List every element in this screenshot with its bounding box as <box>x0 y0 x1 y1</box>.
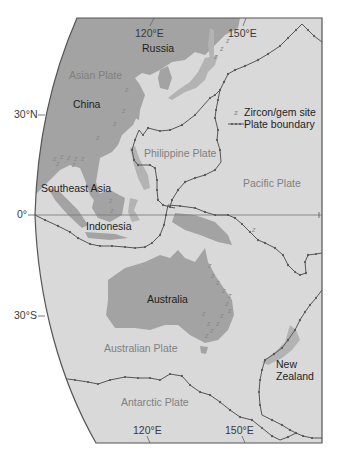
plate-boundary-line-icon <box>228 120 244 129</box>
svg-text:z: z <box>109 207 114 214</box>
region-label-new-zealand-2: Zealand <box>276 371 314 382</box>
svg-text:z: z <box>224 300 229 307</box>
region-label-russia: Russia <box>142 43 174 54</box>
latitude-label-30n: 30°N <box>14 109 37 120</box>
map-figure: zzz zzzz zzzzz zz zz z zzzz zzz zzzz zz <box>0 0 337 461</box>
svg-text:z: z <box>251 226 256 233</box>
longitude-label-120-top: 120°E <box>135 28 164 39</box>
longitude-label-150-top: 150°E <box>228 28 257 39</box>
map-legend: z Zircon/gem site Plate boundary <box>228 106 316 130</box>
plate-label-asian: Asian Plate <box>69 70 122 81</box>
svg-text:z: z <box>210 272 215 279</box>
zircon-symbol-icon: z <box>228 108 244 117</box>
svg-text:z: z <box>215 320 220 327</box>
svg-text:z: z <box>227 307 232 314</box>
longitude-label-120-bottom: 120°E <box>133 425 162 436</box>
svg-text:z: z <box>219 312 224 319</box>
svg-text:z: z <box>95 134 100 141</box>
region-label-indonesia: Indonesia <box>86 221 132 232</box>
svg-text:z: z <box>108 197 113 204</box>
plate-label-australian: Australian Plate <box>104 343 178 354</box>
svg-text:z: z <box>80 155 85 162</box>
svg-text:z: z <box>201 310 206 317</box>
plate-label-philippine: Philippine Plate <box>144 148 216 159</box>
svg-text:z: z <box>221 287 226 294</box>
svg-text:z: z <box>215 279 220 286</box>
legend-zircon-label: Zircon/gem site <box>244 106 316 118</box>
svg-text:z: z <box>124 86 129 93</box>
latitude-label-equator: 0° <box>17 209 27 220</box>
region-label-australia: Australia <box>147 294 188 305</box>
svg-text:z: z <box>206 320 211 327</box>
plate-label-antarctic: Antarctic Plate <box>121 397 189 408</box>
svg-text:z: z <box>55 160 60 167</box>
legend-item-boundary: Plate boundary <box>228 118 316 130</box>
legend-boundary-label: Plate boundary <box>244 118 315 130</box>
svg-text:z: z <box>219 45 224 52</box>
legend-item-zircon: z Zircon/gem site <box>228 106 316 118</box>
svg-text:z: z <box>204 332 209 339</box>
svg-text:z: z <box>66 154 71 161</box>
svg-text:z: z <box>112 120 117 127</box>
latitude-label-30s: 30°S <box>14 310 37 321</box>
svg-text:z: z <box>227 292 232 299</box>
svg-text:z: z <box>209 327 214 334</box>
longitude-label-150-bottom: 150°E <box>225 425 254 436</box>
svg-text:z: z <box>121 107 126 114</box>
region-label-new-zealand-1: New <box>276 359 297 370</box>
svg-text:z: z <box>213 53 218 60</box>
region-label-southeast-asia: Southeast Asia <box>41 183 111 194</box>
svg-text:z: z <box>71 161 76 168</box>
svg-text:z: z <box>59 153 64 160</box>
region-label-china: China <box>73 99 100 110</box>
svg-text:z: z <box>207 262 212 269</box>
plate-label-pacific: Pacific Plate <box>243 178 301 189</box>
